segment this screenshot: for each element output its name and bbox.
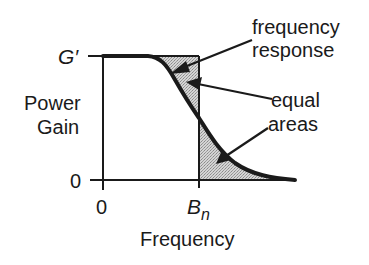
y-axis-label-gain: Gain	[37, 116, 79, 138]
tick-g-prime: G′	[58, 45, 79, 68]
tick-bn-main: B	[187, 195, 201, 218]
annotation-areas: areas	[268, 113, 318, 135]
y-axis-label-power: Power	[24, 92, 81, 114]
tick-bn-subscript: n	[201, 206, 210, 223]
arrow-areas-lower	[216, 128, 268, 164]
annotation-frequency: frequency	[252, 16, 340, 38]
tick-bn: Bn	[187, 195, 210, 223]
tick-x-zero: 0	[96, 196, 107, 218]
annotation-equal: equal	[271, 89, 320, 111]
x-axis-label: Frequency	[140, 228, 235, 250]
annotation-response: response	[252, 39, 334, 61]
noise-bandwidth-diagram: G′ Power Gain 0 0 Bn Frequency frequency…	[0, 0, 369, 265]
tick-y-zero: 0	[70, 170, 81, 192]
